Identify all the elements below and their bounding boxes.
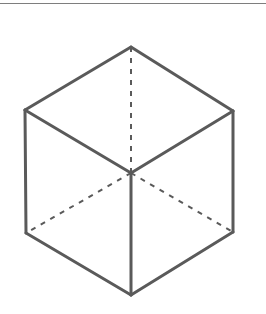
lower-right-to-bottom-edge (131, 232, 233, 295)
cube-figure (0, 0, 266, 314)
visible-edge-group (25, 47, 233, 295)
top-to-upper-right-edge (131, 47, 233, 111)
center-to-lower-right-edge (131, 173, 233, 232)
top-to-upper-left-edge (25, 47, 131, 110)
page-root (0, 0, 266, 314)
upper-left-to-lower-left-edge (25, 110, 26, 233)
center-to-upper-right-edge (131, 111, 233, 173)
cube-diagram (0, 0, 266, 314)
center-to-lower-left-edge (26, 173, 131, 233)
center-to-upper-left-edge (25, 110, 131, 173)
lower-left-to-bottom-edge (26, 233, 131, 295)
